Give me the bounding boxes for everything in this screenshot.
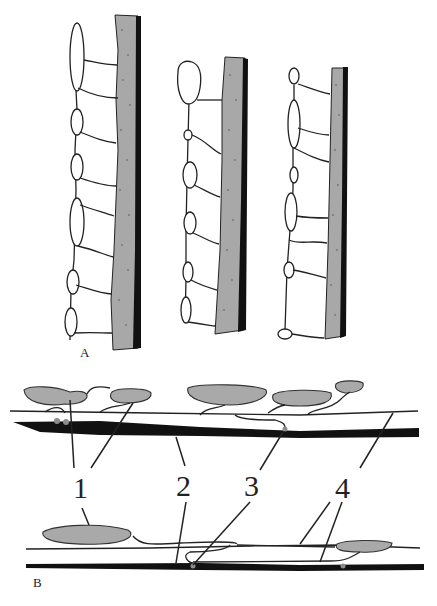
lower-schematic [26,525,424,571]
upper-axon [13,421,419,438]
varicosities-3 [278,68,300,339]
fiber-column-2 [178,57,248,334]
callout-4: 4 [335,471,350,504]
upper-cell-bodies [24,381,363,406]
callout-labels: 1 2 3 4 [73,469,350,504]
callout-3: 3 [244,469,259,502]
fiber-column-1 [65,15,141,350]
lower-processes [133,536,360,563]
varicosities-1 [65,23,84,336]
figure-canvas: A [0,0,437,606]
panel-b: 1 2 3 4 B [10,381,424,590]
callout-1: 1 [73,471,88,504]
panel-label-b: B [33,575,42,590]
panel-a: A [65,15,348,360]
panel-label-a: A [80,345,90,360]
callout-2: 2 [176,469,191,502]
fiber-column-3 [278,67,348,339]
lower-axon [26,563,424,571]
